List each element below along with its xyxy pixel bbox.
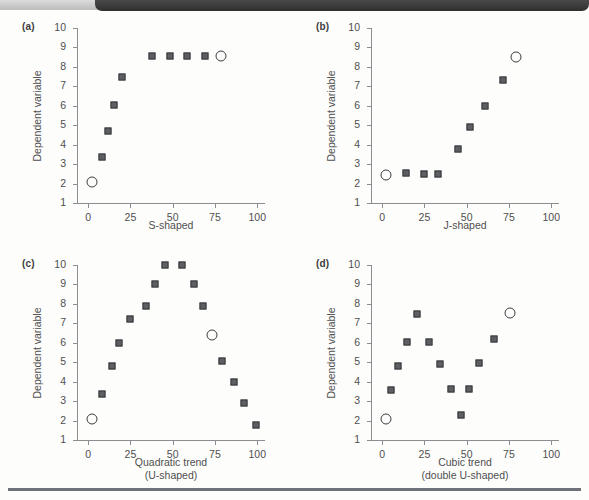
- y-tick-label-c-4: 4: [60, 375, 66, 387]
- y-tick-label-a-6: 6: [60, 99, 66, 111]
- plot-area-c: 123456789100255075100: [78, 265, 264, 440]
- data-point-c-circle-1: [206, 330, 217, 341]
- x-axis-label-b-line1: J-shaped: [443, 219, 486, 231]
- data-point-b-square-6: [500, 76, 507, 83]
- y-tick-a-8: 8: [73, 67, 78, 68]
- footer-rule: [8, 488, 581, 491]
- y-tick-d-3: 3: [367, 401, 372, 402]
- panel-c: (c) Dependent variable 12345678910025507…: [0, 248, 294, 485]
- y-tick-b-2: 2: [367, 184, 372, 185]
- y-tick-a-6: 6: [73, 106, 78, 107]
- x-tick-a-0: [88, 203, 89, 208]
- y-tick-d-9: 9: [367, 284, 372, 285]
- y-tick-label-c-6: 6: [60, 336, 66, 348]
- x-axis-label-d-line2: (double U-shaped): [372, 469, 558, 482]
- x-axis-label-a: S-shaped: [78, 219, 264, 232]
- y-axis-label-d: Dependent variable: [324, 265, 338, 440]
- x-axis-spine-c: [77, 440, 265, 441]
- x-axis-spine-a: [77, 203, 265, 204]
- data-point-b-square-1: [420, 171, 427, 178]
- data-point-d-square-3: [413, 310, 420, 317]
- y-tick-label-b-10: 10: [348, 21, 360, 33]
- page-header-banner: [0, 0, 589, 11]
- y-tick-d-10: 10: [367, 265, 372, 266]
- y-tick-b-6: 6: [367, 106, 372, 107]
- data-point-d-square-4: [426, 338, 433, 345]
- data-point-d-square-2: [403, 338, 410, 345]
- y-tick-label-b-9: 9: [354, 40, 360, 52]
- x-tick-c-75: [215, 440, 216, 445]
- y-tick-d-4: 4: [367, 382, 372, 383]
- data-point-b-square-3: [455, 145, 462, 152]
- data-point-c-square-3: [126, 316, 133, 323]
- x-tick-d-100: [551, 440, 552, 445]
- x-tick-b-100: [551, 203, 552, 208]
- data-point-c-square-4: [143, 302, 150, 309]
- panel-d: (d) Dependent variable 12345678910025507…: [294, 248, 588, 485]
- y-tick-d-1: 1: [367, 440, 372, 441]
- y-tick-label-b-5: 5: [354, 118, 360, 130]
- y-tick-c-3: 3: [73, 401, 78, 402]
- x-tick-b-50: [467, 203, 468, 208]
- x-axis-label-c: Quadratic trend (U-shaped): [78, 456, 264, 481]
- y-tick-label-a-10: 10: [54, 21, 66, 33]
- figure-scatter-plot-grid: (a) Dependent variable 12345678910025507…: [0, 11, 589, 485]
- data-point-d-square-0: [388, 387, 395, 394]
- data-point-d-square-10: [490, 335, 497, 342]
- data-point-d-square-7: [457, 411, 464, 418]
- y-tick-label-d-4: 4: [354, 375, 360, 387]
- banner-dark-segment: [95, 0, 589, 11]
- y-tick-d-6: 6: [367, 343, 372, 344]
- x-tick-c-50: [173, 440, 174, 445]
- y-tick-label-a-4: 4: [60, 138, 66, 150]
- y-tick-label-a-3: 3: [60, 157, 66, 169]
- y-tick-label-a-5: 5: [60, 118, 66, 130]
- y-tick-label-b-1: 1: [354, 196, 360, 208]
- data-point-d-square-1: [395, 363, 402, 370]
- y-tick-c-6: 6: [73, 343, 78, 344]
- x-tick-d-0: [382, 440, 383, 445]
- data-point-d-circle-0: [381, 413, 392, 424]
- y-tick-label-d-10: 10: [348, 258, 360, 270]
- data-point-b-square-2: [434, 171, 441, 178]
- y-tick-label-b-2: 2: [354, 177, 360, 189]
- data-point-b-circle-0: [381, 169, 392, 180]
- y-tick-label-c-9: 9: [60, 277, 66, 289]
- data-point-a-square-1: [104, 128, 111, 135]
- x-tick-a-100: [257, 203, 258, 208]
- x-axis-label-a-line1: S-shaped: [149, 219, 194, 231]
- data-point-d-circle-1: [504, 307, 515, 318]
- x-tick-b-75: [509, 203, 510, 208]
- y-tick-label-b-4: 4: [354, 138, 360, 150]
- plot-area-a: 123456789100255075100: [78, 28, 264, 203]
- y-tick-b-1: 1: [367, 203, 372, 204]
- y-tick-label-d-1: 1: [354, 433, 360, 445]
- data-point-c-square-7: [178, 262, 185, 269]
- y-tick-d-2: 2: [367, 421, 372, 422]
- y-tick-c-5: 5: [73, 362, 78, 363]
- y-tick-label-a-7: 7: [60, 79, 66, 91]
- x-tick-a-25: [130, 203, 131, 208]
- y-tick-label-c-7: 7: [60, 316, 66, 328]
- data-point-b-square-5: [482, 102, 489, 109]
- y-axis-label-b: Dependent variable: [324, 28, 338, 203]
- data-point-c-square-8: [190, 281, 197, 288]
- y-tick-a-5: 5: [73, 125, 78, 126]
- y-tick-a-2: 2: [73, 184, 78, 185]
- data-point-c-square-11: [231, 378, 238, 385]
- data-point-a-square-4: [149, 53, 156, 60]
- y-tick-label-a-9: 9: [60, 40, 66, 52]
- y-tick-c-8: 8: [73, 304, 78, 305]
- y-tick-label-c-5: 5: [60, 355, 66, 367]
- x-axis-spine-d: [371, 440, 559, 441]
- data-point-c-square-10: [218, 358, 225, 365]
- x-tick-a-75: [215, 203, 216, 208]
- y-tick-label-c-10: 10: [54, 258, 66, 270]
- x-tick-c-100: [257, 440, 258, 445]
- y-tick-b-3: 3: [367, 164, 372, 165]
- y-tick-label-d-2: 2: [354, 414, 360, 426]
- data-point-a-square-6: [184, 53, 191, 60]
- y-tick-b-10: 10: [367, 28, 372, 29]
- panel-a: (a) Dependent variable 12345678910025507…: [0, 11, 294, 248]
- y-axis-label-c: Dependent variable: [30, 265, 44, 440]
